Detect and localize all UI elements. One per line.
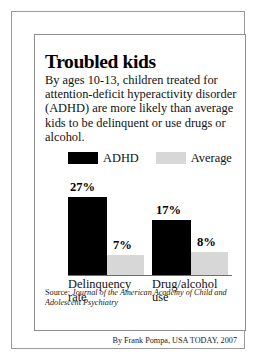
outer-frame: Troubled kids By ages 10-13, children tr…: [11, 11, 245, 349]
bar-value-average-delinquency-rate: 7%: [113, 239, 132, 252]
legend-label-adhd: ADHD: [103, 152, 139, 164]
source-prefix: Source:: [45, 288, 72, 297]
legend-swatch-adhd: [68, 152, 98, 164]
bar-value-average-drug-alcohol-use: 8%: [197, 236, 216, 249]
source-publication: Journal of the American Academy of Child…: [45, 288, 227, 307]
legend-swatch-average: [156, 152, 186, 164]
deck-text: By ages 10-13, children treated for atte…: [45, 73, 239, 144]
bar-average-drug-alcohol-use: [191, 252, 228, 275]
bar-adhd-drug-alcohol-use: [152, 220, 191, 275]
bar-pair: 27% 7%: [68, 175, 144, 275]
chart-baseline: [68, 275, 232, 276]
byline: By Frank Pompa, USA TODAY, 2007: [112, 336, 237, 345]
chart-legend: ADHD Average: [68, 152, 232, 164]
bar-average-delinquency-rate: [107, 255, 144, 275]
legend-item-adhd: ADHD: [68, 152, 139, 164]
bar-adhd-delinquency-rate: [68, 197, 107, 275]
source-note: Source: Journal of the American Academy …: [45, 288, 235, 307]
infographic-panel: Troubled kids By ages 10-13, children tr…: [34, 34, 246, 331]
bar-pair: 17% 8%: [152, 175, 228, 275]
legend-item-average: Average: [156, 152, 232, 164]
bar-chart: 27% 7% Delinquency rate 17% 8% Drug/alco…: [35, 175, 245, 280]
bar-value-adhd-delinquency-rate: 27%: [70, 181, 95, 194]
bar-value-adhd-drug-alcohol-use: 17%: [156, 204, 181, 217]
page-title: Troubled kids: [45, 52, 156, 72]
legend-label-average: Average: [191, 152, 232, 164]
